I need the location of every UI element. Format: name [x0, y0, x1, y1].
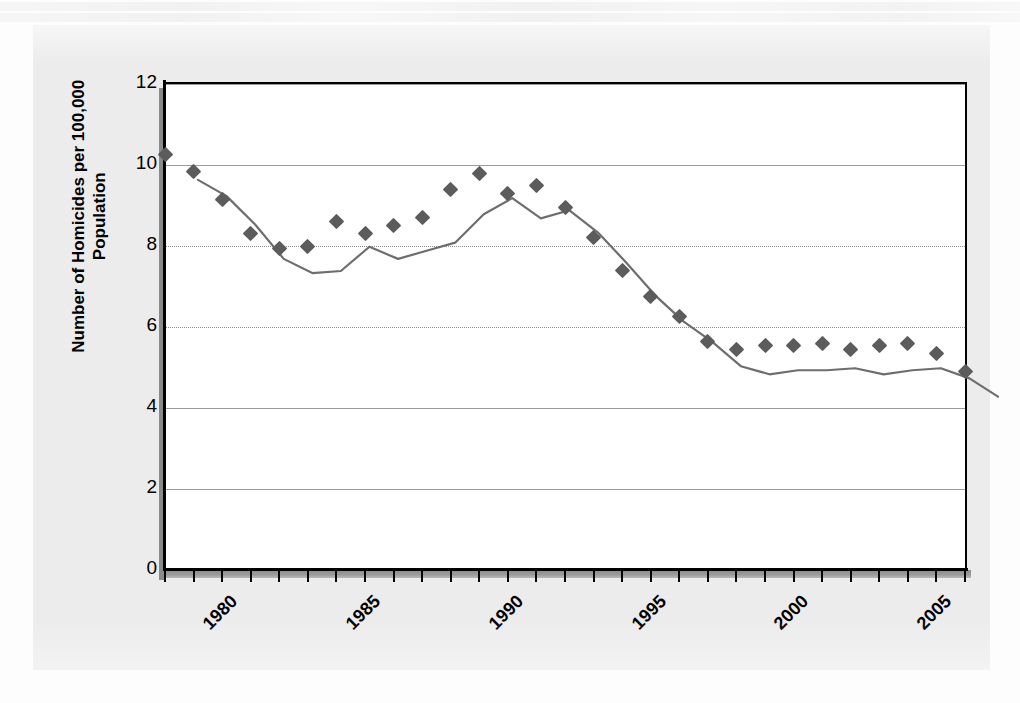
- x-axis-tick: [307, 571, 309, 582]
- y-axis-tick-label: 10: [117, 152, 157, 174]
- x-axis-tick: [335, 571, 337, 582]
- y-axis-tick-label: 12: [117, 71, 157, 93]
- x-axis-tick: [850, 571, 852, 582]
- scan-bleed-line: [0, 2, 1020, 11]
- x-axis-tick: [564, 571, 566, 582]
- x-axis-tick-label: 1985: [342, 591, 385, 634]
- scan-bleed-line: [0, 13, 1020, 22]
- x-axis-tick: [707, 571, 709, 582]
- scanned-page: Number of Homicides per 100,000 Populati…: [0, 0, 1020, 703]
- x-axis-tick: [250, 571, 252, 582]
- y-axis-tick-label: 6: [117, 314, 157, 336]
- x-axis-tick: [793, 571, 795, 582]
- x-axis-tick: [221, 571, 223, 582]
- x-axis-tick: [678, 571, 680, 582]
- gridline: [165, 165, 965, 166]
- y-axis-tick-label: 2: [117, 476, 157, 498]
- x-axis-tick: [593, 571, 595, 582]
- x-axis-tick: [164, 571, 166, 582]
- x-axis-tick: [450, 571, 452, 582]
- x-axis-tick: [621, 571, 623, 582]
- x-axis-tick: [421, 571, 423, 582]
- x-axis-tick: [393, 571, 395, 582]
- x-axis-tick: [364, 571, 366, 582]
- x-axis-tick: [193, 571, 195, 582]
- x-axis-tick: [535, 571, 537, 582]
- chart-panel: Number of Homicides per 100,000 Populati…: [33, 25, 990, 670]
- x-axis-tick: [764, 571, 766, 582]
- y-axis-tick-label: 4: [117, 395, 157, 417]
- x-axis-tick: [650, 571, 652, 582]
- y-axis-tick-label: 8: [117, 233, 157, 255]
- x-axis-tick-label: 1995: [627, 591, 670, 634]
- x-axis-tick: [478, 571, 480, 582]
- x-axis-tick: [907, 571, 909, 582]
- x-axis-tick-label: 2000: [770, 591, 813, 634]
- gridline: [165, 408, 965, 409]
- x-axis-tick-label: 2005: [913, 591, 956, 634]
- y-axis-title: Number of Homicides per 100,000 Populati…: [68, 56, 111, 376]
- x-axis-tick: [821, 571, 823, 582]
- x-axis-tick: [507, 571, 509, 582]
- x-axis-tick-label: 1990: [484, 591, 527, 634]
- x-axis-tick: [935, 571, 937, 582]
- gridline: [165, 327, 965, 328]
- plot-area: [165, 82, 967, 570]
- x-axis-tick: [878, 571, 880, 582]
- gridline: [165, 489, 965, 490]
- x-axis-tick: [964, 571, 966, 582]
- x-axis-tick: [735, 571, 737, 582]
- y-axis-tick-label: 0: [117, 557, 157, 579]
- x-axis-tick-label: 1980: [199, 591, 242, 634]
- gridline: [165, 84, 965, 85]
- x-axis-tick: [278, 571, 280, 582]
- y-axis-tick-labels: 024681012: [105, 50, 157, 650]
